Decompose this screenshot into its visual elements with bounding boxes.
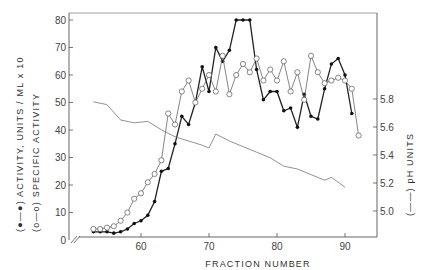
specific-activity-point: [179, 89, 184, 94]
activity-point: [248, 18, 252, 22]
specific-activity-point: [288, 89, 293, 94]
specific-activity-point: [166, 111, 171, 116]
specific-activity-point: [132, 196, 137, 201]
specific-activity-point: [322, 81, 327, 86]
activity-point: [132, 222, 136, 226]
specific-activity-point: [349, 86, 354, 91]
specific-activity-point: [336, 75, 341, 80]
activity-line: [93, 20, 351, 233]
specific-activity-point: [91, 226, 96, 231]
specific-activity-point: [329, 78, 334, 83]
activity-point: [200, 65, 204, 69]
y-tick-label: 10: [55, 207, 67, 218]
activity-point: [207, 90, 211, 94]
y-tick-label: 80: [55, 15, 67, 26]
specific-activity-point: [172, 122, 177, 127]
x-tick-label: 70: [203, 241, 215, 252]
x-axis-ticks: 60708090: [135, 233, 351, 252]
specific-activity-point: [220, 53, 225, 58]
specific-activity-point: [98, 226, 103, 231]
ph-line: [93, 102, 345, 187]
activity-point: [289, 106, 293, 110]
left-axis-label-activity: (●—●) ACTIVITY, UNITS / ML x 10: [15, 56, 25, 232]
y-tick-label: 0: [60, 235, 66, 246]
y-tick-label: 60: [55, 70, 67, 81]
y-tick-label: 40: [55, 125, 67, 136]
specific-activity-point: [342, 78, 347, 83]
right-axis-label-ph: (——) pH UNITS: [405, 133, 415, 216]
ph-tick-label: 5.6: [380, 122, 394, 133]
activity-point: [255, 68, 259, 72]
activity-point: [166, 167, 170, 171]
activity-point: [187, 123, 191, 127]
activity-point: [323, 87, 327, 91]
x-tick-label: 80: [271, 241, 283, 252]
activity-point: [262, 98, 266, 102]
specific-activity-point: [247, 70, 252, 75]
specific-activity-point: [308, 53, 313, 58]
y-tick-label: 20: [55, 180, 67, 191]
specific-activity-point: [213, 89, 218, 94]
specific-activity-point: [104, 225, 109, 230]
specific-activity-point: [274, 78, 279, 83]
specific-activity-point: [281, 59, 286, 64]
right-y-axis-ticks: 5.05.25.45.65.8: [373, 94, 394, 217]
activity-point: [234, 18, 238, 22]
ph-tick-label: 5.4: [380, 150, 394, 161]
axis-break-mark: [74, 236, 80, 243]
activity-point: [309, 114, 313, 118]
activity-point: [173, 142, 177, 146]
specific-activity-point: [295, 70, 300, 75]
activity-point: [350, 112, 354, 116]
specific-activity-point: [138, 191, 143, 196]
specific-activity-point: [200, 86, 205, 91]
specific-activity-point: [118, 218, 123, 223]
specific-activity-point: [125, 210, 130, 215]
specific-activity-point: [206, 72, 211, 77]
y-tick-label: 30: [55, 152, 67, 163]
specific-activity-point: [227, 92, 232, 97]
activity-point: [153, 200, 157, 204]
activity-point: [316, 117, 320, 121]
axis-break-mark: [71, 236, 77, 243]
specific-activity-point: [261, 78, 266, 83]
x-axis-label: FRACTION NUMBER: [205, 259, 311, 269]
plot-frame: [69, 13, 377, 243]
specific-activity-point: [302, 97, 307, 102]
activity-point: [241, 18, 245, 22]
activity-point: [146, 213, 150, 217]
activity-point: [119, 230, 123, 234]
specific-activity-point: [193, 100, 198, 105]
activity-point: [112, 231, 116, 235]
left-axis-label-specific-activity: (o—o) SPECIFIC ACTIVITY: [31, 93, 41, 232]
activity-point: [275, 90, 279, 94]
specific-activity-point: [254, 56, 259, 61]
specific-activity-point: [240, 61, 245, 66]
specific-activity-point: [315, 70, 320, 75]
specific-activity-point: [111, 224, 116, 229]
specific-activity-point: [234, 72, 239, 77]
activity-point: [180, 114, 184, 118]
ph-tick-label: 5.0: [380, 206, 394, 217]
activity-point: [160, 169, 164, 173]
specific-activity-point: [152, 171, 157, 176]
x-tick-label: 60: [135, 241, 147, 252]
activity-point: [330, 62, 334, 66]
activity-point: [268, 90, 272, 94]
activity-point: [126, 227, 130, 231]
y-tick-label: 70: [55, 42, 67, 53]
activity-point: [139, 219, 143, 223]
y-tick-label: 50: [55, 97, 67, 108]
specific-activity-point: [159, 158, 164, 163]
activity-point: [343, 73, 347, 77]
specific-activity-point: [186, 78, 191, 83]
activity-point: [282, 109, 286, 113]
chart: 60708090 01020304050607080 5.05.25.45.65…: [0, 0, 428, 270]
activity-point: [228, 48, 232, 52]
specific-activity-point: [268, 67, 273, 72]
activity-point: [214, 46, 218, 50]
specific-activity-line: [93, 56, 358, 229]
activity-point: [336, 57, 340, 61]
specific-activity-point: [145, 180, 150, 185]
data-series: [91, 18, 361, 235]
